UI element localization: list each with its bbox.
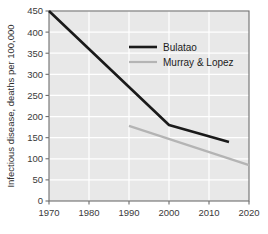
chart-container: 050100150200250300350400450 197019801990… (0, 0, 268, 234)
x-axis-tick-label: 2020 (238, 207, 259, 218)
y-axis-tick-label: 250 (27, 90, 43, 101)
y-axis-tick-label: 0 (38, 195, 43, 206)
y-axis-tick-label: 400 (27, 27, 43, 38)
y-axis-tick-label: 450 (27, 5, 43, 16)
legend-label-2: Murray & Lopez (163, 57, 234, 68)
y-axis-tick-label: 200 (27, 111, 43, 122)
x-axis-tick-label: 1970 (38, 207, 59, 218)
infectious-disease-line-chart: 050100150200250300350400450 197019801990… (0, 0, 268, 234)
y-axis-tick-label: 300 (27, 69, 43, 80)
y-axis-tick-label: 50 (32, 174, 43, 185)
y-axis-tick-label: 100 (27, 153, 43, 164)
x-axis-tick-label: 2000 (158, 207, 179, 218)
x-axis-tick-label: 2010 (198, 207, 219, 218)
y-axis-tick-label: 350 (27, 48, 43, 59)
y-axis-tick-label: 150 (27, 132, 43, 143)
legend-label-1: Bulatao (163, 42, 197, 53)
y-axis-title: Infectious disease, deaths per 100,000 (5, 24, 16, 187)
x-axis-tick-label: 1990 (118, 207, 139, 218)
x-axis-tick-label: 1980 (78, 207, 99, 218)
